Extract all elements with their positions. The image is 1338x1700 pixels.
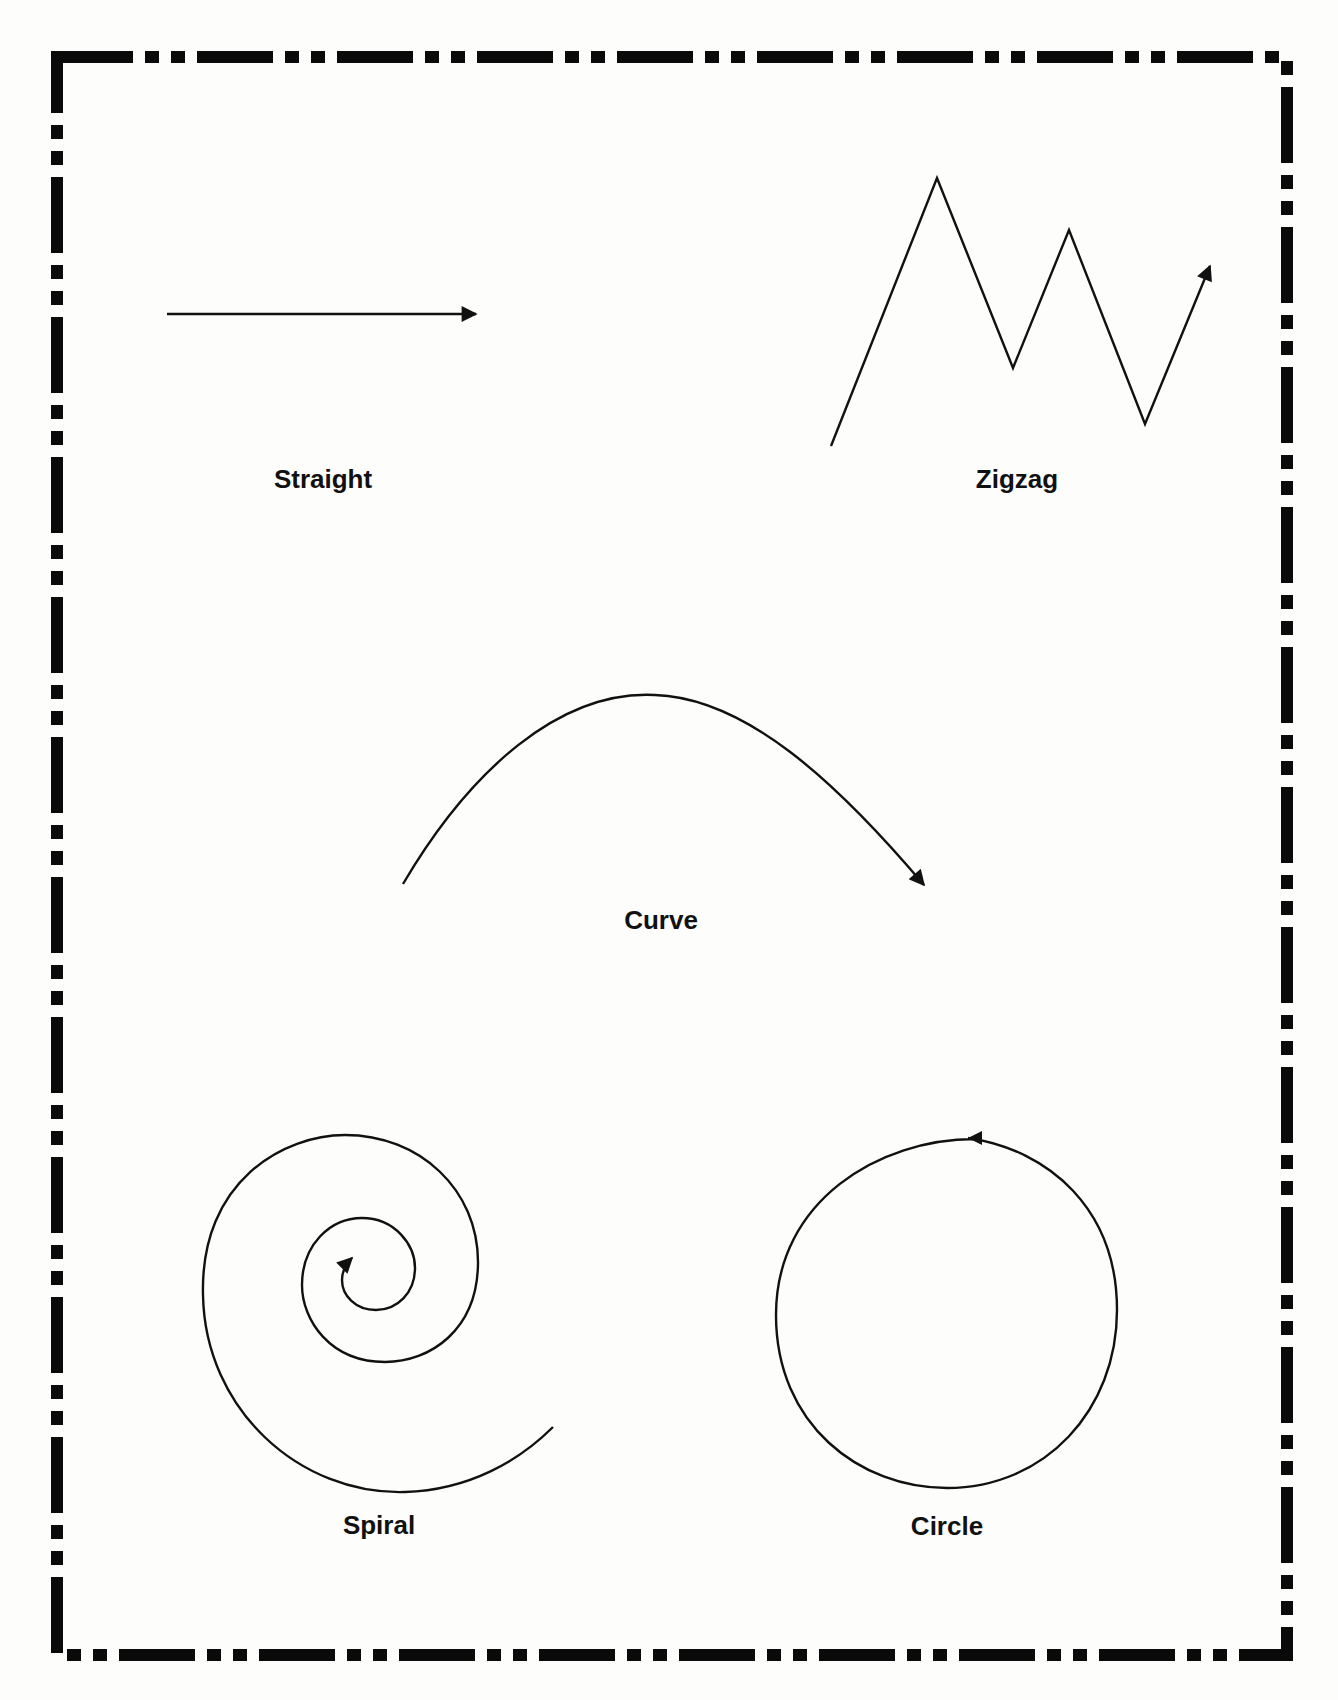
worksheet-canvas xyxy=(0,0,1338,1700)
dashed-border xyxy=(57,57,1287,1655)
label-circle: Circle xyxy=(911,1513,983,1539)
zigzag-line-arrow-icon xyxy=(831,178,1210,446)
worksheet: Straight Zigzag Curve Spiral Circle xyxy=(0,0,1338,1700)
circle-line-arrow-icon xyxy=(776,1131,1117,1488)
label-curve: Curve xyxy=(624,907,698,933)
curved-line-arrow-icon xyxy=(403,695,924,885)
spiral-line-arrow-icon xyxy=(203,1135,553,1492)
label-zigzag: Zigzag xyxy=(976,466,1058,492)
label-straight: Straight xyxy=(274,466,372,492)
label-spiral: Spiral xyxy=(343,1512,415,1538)
